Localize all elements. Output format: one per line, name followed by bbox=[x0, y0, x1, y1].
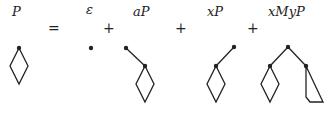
xp-root-dot bbox=[232, 45, 236, 49]
epsilon-dot bbox=[89, 46, 93, 50]
tree-diagrams bbox=[0, 0, 329, 113]
lhs-root-dot bbox=[17, 46, 21, 50]
ap-child-dot bbox=[143, 64, 147, 68]
lhs-diamond bbox=[10, 48, 28, 84]
term-ap-tree bbox=[126, 48, 154, 102]
xmyp-right-dot bbox=[304, 64, 308, 68]
term-xmyp-tree bbox=[261, 47, 323, 102]
ap-root-dot bbox=[124, 46, 128, 50]
xp-child-dot bbox=[214, 64, 218, 68]
term-xp-tree bbox=[207, 47, 234, 102]
xmyp-root-dot bbox=[286, 45, 290, 49]
xmyp-left-dot bbox=[268, 64, 272, 68]
